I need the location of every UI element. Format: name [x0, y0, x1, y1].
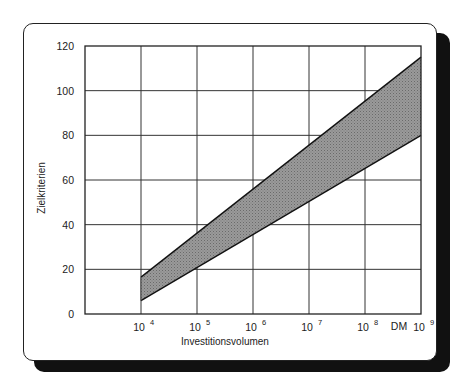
x-tick-exponent: 7 [318, 318, 322, 327]
band-upper-line [141, 57, 421, 277]
band-area [141, 57, 421, 300]
y-tick-label: 60 [62, 174, 74, 186]
y-tick-label: 120 [56, 40, 74, 52]
y-tick-label: 20 [62, 263, 74, 275]
x-tick-exponent: 6 [262, 318, 266, 327]
band-lower-line [141, 135, 421, 300]
x-tick-label: 10 [245, 321, 257, 333]
x-axis-label: Investitionsvolumen [181, 336, 269, 347]
x-tick-label: 10 [189, 321, 201, 333]
y-tick-label: 40 [62, 219, 74, 231]
y-tick-label: 0 [68, 308, 74, 320]
y-tick-label: 100 [56, 85, 74, 97]
x-tick-label: 10 [413, 321, 425, 333]
band-layer [141, 57, 421, 300]
x-tick-exponent: 5 [206, 318, 210, 327]
chart: 020406080100120 104105106107108109 Inves… [0, 0, 470, 390]
x-tick-label: 10 [357, 321, 369, 333]
x-tick-exponent: 4 [150, 318, 154, 327]
x-tick-exponent: 9 [430, 318, 434, 327]
y-tick-labels: 020406080100120 [56, 40, 74, 320]
x-unit-label: DM [391, 320, 407, 332]
x-tick-label: 10 [133, 321, 145, 333]
y-axis-label: Zielkriterien [36, 162, 47, 214]
x-tick-label: 10 [301, 321, 313, 333]
grid [85, 46, 421, 314]
x-tick-labels: 104105106107108109 [133, 318, 434, 333]
x-tick-exponent: 8 [374, 318, 378, 327]
y-tick-label: 80 [62, 129, 74, 141]
